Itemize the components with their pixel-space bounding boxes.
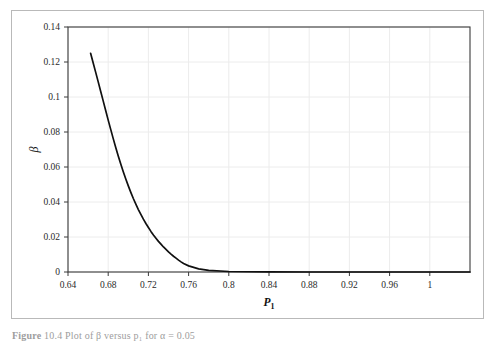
y-tick-label: 0.06 bbox=[43, 162, 60, 172]
x-tick-label: 0.64 bbox=[60, 280, 77, 290]
tick-marks-group bbox=[64, 27, 430, 276]
x-tick-label: 0.8 bbox=[223, 280, 235, 290]
x-tick-label: 0.84 bbox=[261, 280, 278, 290]
x-tick-label: 0.72 bbox=[140, 280, 157, 290]
x-axis-title: P1 bbox=[263, 296, 274, 311]
data-series-group bbox=[91, 53, 470, 272]
caption-label: Figure bbox=[12, 330, 41, 341]
caption-text: 10.4 Plot of β versus p₁ for α = 0.05 bbox=[41, 330, 195, 341]
y-tick-label: 0.04 bbox=[43, 197, 60, 207]
gridlines-group bbox=[68, 27, 470, 272]
y-tick-label: 0.12 bbox=[43, 57, 60, 67]
figure-caption-fragment: Figure 10.4 Plot of β versus p₁ for α = … bbox=[12, 330, 312, 341]
figure-container: 0.640.680.720.760.80.840.880.920.96100.0… bbox=[0, 0, 495, 341]
y-tick-label: 0.14 bbox=[43, 22, 60, 32]
x-tick-label: 0.88 bbox=[301, 280, 318, 290]
y-tick-label: 0.1 bbox=[48, 92, 60, 102]
x-tick-label: 0.92 bbox=[341, 280, 358, 290]
tick-labels-group: 0.640.680.720.760.80.840.880.920.96100.0… bbox=[43, 22, 432, 290]
x-tick-label: 0.96 bbox=[381, 280, 398, 290]
y-tick-label: 0.08 bbox=[43, 127, 60, 137]
data-curve bbox=[91, 53, 470, 272]
x-tick-label: 0.68 bbox=[100, 280, 117, 290]
y-axis-title: β bbox=[27, 146, 41, 153]
x-tick-label: 1 bbox=[427, 280, 432, 290]
y-tick-label: 0.02 bbox=[43, 232, 60, 242]
x-tick-label: 0.76 bbox=[180, 280, 197, 290]
y-tick-label: 0 bbox=[55, 267, 60, 277]
chart-plot-area: 0.640.680.720.760.80.840.880.920.96100.0… bbox=[0, 0, 495, 341]
